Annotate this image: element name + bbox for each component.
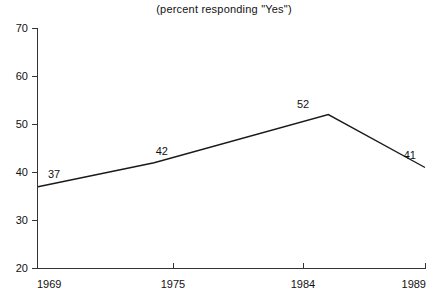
x-tick-label-1984: 1984 <box>291 278 315 290</box>
y-tick-label-60: 60 <box>16 70 28 82</box>
y-tick-label-20: 20 <box>16 262 28 274</box>
value-label-1969: 37 <box>48 168 60 180</box>
x-tick-label-1969: 1969 <box>37 278 61 290</box>
y-tick-label-70: 70 <box>16 22 28 34</box>
x-tick-label-1975: 1975 <box>161 278 185 290</box>
chart-container: (percent responding "Yes") 70 60 50 40 3… <box>0 0 448 300</box>
value-label-1989: 41 <box>404 149 416 161</box>
y-tick-label-50: 50 <box>16 118 28 130</box>
y-tick-label-40: 40 <box>16 166 28 178</box>
value-label-1984: 52 <box>297 98 309 110</box>
value-label-1975: 42 <box>156 145 168 157</box>
series-line-percent-yes <box>38 115 425 187</box>
line-chart-plot: 70 60 50 40 30 20 1969 1975 1984 1989 37… <box>0 0 448 300</box>
x-tick-label-1989: 1989 <box>402 278 426 290</box>
y-tick-label-30: 30 <box>16 214 28 226</box>
